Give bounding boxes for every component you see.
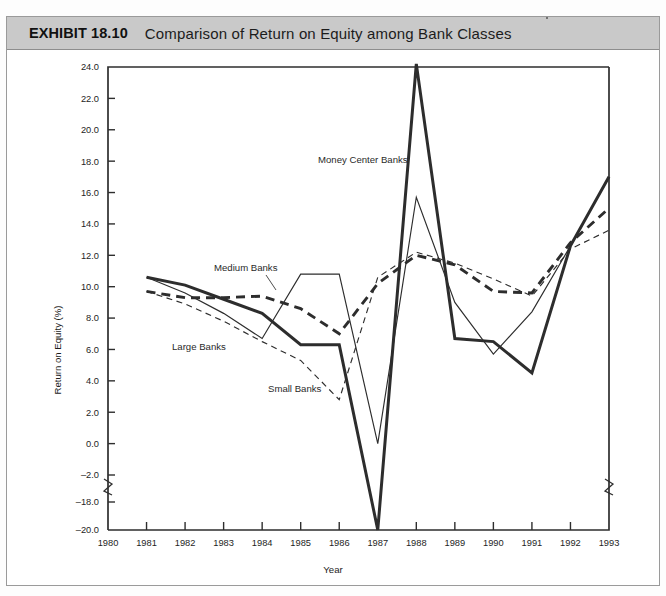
series-line-small-banks	[147, 230, 609, 399]
y-tick-label: –18.0	[76, 497, 99, 507]
x-tick-label: 1980	[98, 538, 119, 548]
y-tick-label: 14.0	[81, 219, 99, 229]
x-tick-label: 1993	[599, 538, 620, 548]
x-tick-label: 1988	[406, 538, 427, 548]
line-chart: 24.022.020.018.016.014.012.010.08.06.04.…	[0, 0, 666, 596]
x-tick-label: 1983	[213, 538, 234, 548]
chart-axes	[104, 67, 613, 530]
x-tick-label: 1991	[522, 538, 543, 548]
y-axis-break-right	[605, 479, 613, 495]
y-tick-label: 20.0	[81, 125, 99, 135]
series-annotation: Small Banks	[268, 383, 322, 394]
x-axis-ticks: 1980198119821983198419851986198719881989…	[98, 522, 620, 548]
y-axis-title: Return on Equity (%)	[52, 305, 63, 394]
x-tick-label: 1981	[136, 538, 157, 548]
y-tick-label: 0.0	[86, 439, 99, 449]
y-tick-label: 10.0	[81, 282, 99, 292]
y-tick-label: 18.0	[81, 157, 99, 167]
x-tick-label: 1987	[367, 538, 388, 548]
exhibit-page: EXHIBIT 18.10 Comparison of Return on Eq…	[0, 0, 666, 596]
series-line-large-banks	[147, 177, 609, 444]
x-tick-label: 1985	[290, 538, 311, 548]
y-tick-label: 16.0	[81, 188, 99, 198]
y-tick-label: –20.0	[76, 525, 99, 535]
x-axis-title: Year	[323, 564, 343, 575]
y-tick-label: 12.0	[81, 251, 99, 261]
chart-plot-area: 24.022.020.018.016.014.012.010.08.06.04.…	[0, 0, 666, 596]
y-axis-ticks: 24.022.020.018.016.014.012.010.08.06.04.…	[76, 62, 115, 535]
series-annotation: Medium Banks	[214, 262, 278, 273]
x-tick-label: 1986	[329, 538, 350, 548]
y-tick-label: 4.0	[86, 376, 99, 386]
series-annotation: Large Banks	[172, 341, 226, 352]
y-tick-label: 24.0	[81, 62, 99, 72]
y-axis-break-left	[104, 479, 112, 495]
series-line-money-center-banks	[147, 64, 609, 530]
x-tick-label: 1989	[445, 538, 466, 548]
chart-annotations: Money Center BanksMedium BanksLarge Bank…	[172, 154, 408, 394]
y-tick-label: –2.0	[81, 470, 99, 480]
y-tick-label: 2.0	[86, 408, 99, 418]
y-tick-label: 6.0	[86, 345, 99, 355]
annotation-leader-line	[266, 275, 276, 290]
x-tick-label: 1984	[252, 538, 273, 548]
chart-series-group	[147, 64, 609, 530]
x-tick-label: 1990	[483, 538, 504, 548]
x-tick-label: 1982	[175, 538, 196, 548]
x-tick-label: 1992	[560, 538, 581, 548]
y-tick-label: 22.0	[81, 94, 99, 104]
series-annotation: Money Center Banks	[318, 154, 408, 165]
y-tick-label: 8.0	[86, 313, 99, 323]
